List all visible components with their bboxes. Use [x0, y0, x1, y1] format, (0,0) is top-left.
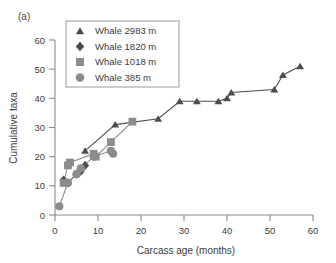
figure-panel: (a) 0102030405060 0102030405060 Cumulati… — [0, 0, 336, 263]
legend-label: Whale 1820 m — [95, 41, 156, 52]
data-point-circle-icon — [109, 150, 117, 158]
y-tick-label: 0 — [40, 210, 45, 221]
x-tick-label: 20 — [136, 225, 147, 236]
y-tick-label: 10 — [34, 180, 45, 191]
panel-label: (a) — [18, 11, 30, 22]
x-tick-label: 10 — [93, 225, 104, 236]
data-point-square-icon — [129, 118, 137, 126]
x-tick-label: 60 — [308, 225, 319, 236]
data-point-circle-icon — [77, 164, 85, 172]
x-tick-label: 30 — [179, 225, 190, 236]
data-point-square-icon — [107, 138, 115, 146]
cumulative-taxa-chart: (a) 0102030405060 0102030405060 Cumulati… — [0, 0, 336, 263]
legend-marker-square-icon — [76, 58, 84, 66]
y-tick-label: 20 — [34, 151, 45, 162]
y-axis-title: Cumulative taxa — [8, 92, 19, 164]
y-tick-label: 50 — [34, 64, 45, 75]
x-axis-title: Carcass age (months) — [137, 245, 235, 256]
chart-legend: Whale 2983 mWhale 1820 mWhale 1018 mWhal… — [66, 21, 179, 87]
x-tick-label: 40 — [222, 225, 233, 236]
y-tick-label: 30 — [34, 122, 45, 133]
legend-label: Whale 1018 m — [95, 56, 156, 67]
legend-label: Whale 385 m — [95, 72, 151, 83]
data-point-circle-icon — [64, 179, 72, 187]
data-point-circle-icon — [90, 153, 98, 161]
y-tick-label: 60 — [34, 35, 45, 46]
legend-label: Whale 2983 m — [95, 25, 156, 36]
data-point-square-icon — [66, 159, 74, 167]
x-tick-label: 0 — [52, 225, 57, 236]
legend-marker-circle-icon — [76, 73, 85, 82]
y-tick-label: 40 — [34, 93, 45, 104]
data-point-circle-icon — [55, 202, 63, 210]
x-tick-label: 50 — [265, 225, 276, 236]
